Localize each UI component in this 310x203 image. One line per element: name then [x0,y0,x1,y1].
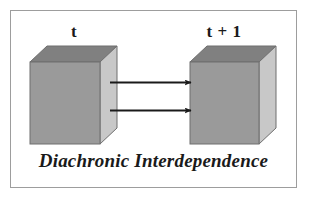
figure-caption: Diachronic Interdependence [14,150,293,172]
left-cube-front-face [30,62,100,144]
arrow-group [110,83,191,111]
figure-root: t t + 1 Diachronic Interdependence [0,0,310,203]
left-cube-side-face [100,46,117,144]
left-cube-label: t [30,22,118,42]
right-cube-side-face [259,46,276,144]
left-cube [30,46,117,144]
right-cube-label: t + 1 [178,22,270,42]
right-cube-front-face [190,62,259,144]
right-cube [190,46,276,144]
